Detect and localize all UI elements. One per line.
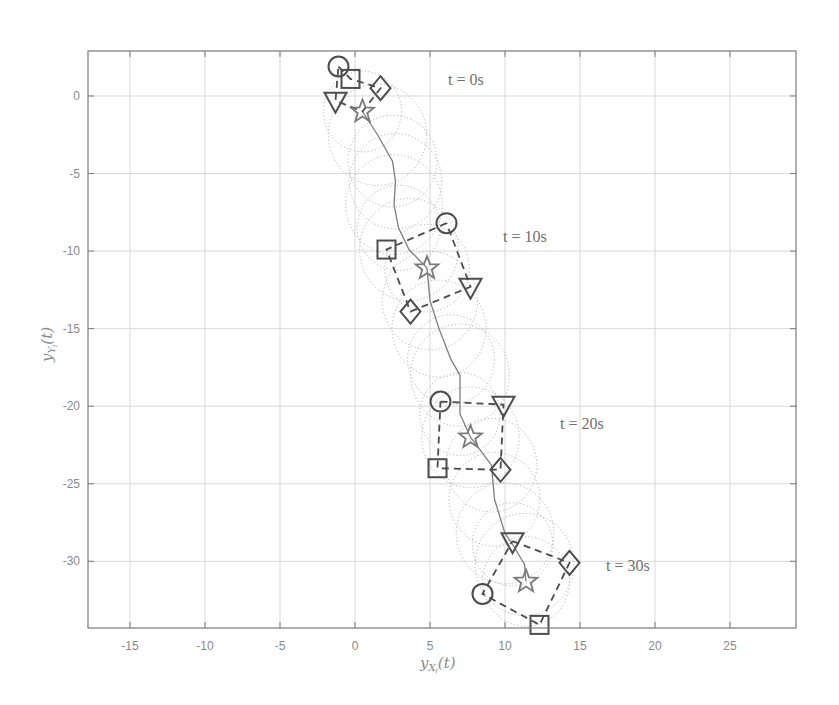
leader-path-line — [363, 111, 527, 581]
y-tick-label: 0 — [73, 89, 80, 103]
x-tick-label: 5 — [427, 639, 434, 653]
time-label-0s: t = 0s — [448, 71, 484, 88]
plot-frame — [88, 51, 796, 628]
x-tick-label: -15 — [121, 639, 139, 653]
time-label-20s: t = 20s — [560, 415, 604, 432]
leader-trajectory — [363, 111, 527, 581]
agent-markers — [325, 57, 580, 634]
grid-lines — [88, 51, 796, 628]
y-tick-label: -5 — [69, 167, 80, 181]
formation-link — [483, 541, 570, 625]
formation-link — [387, 223, 471, 311]
x-tick-label: -5 — [275, 639, 286, 653]
x-tick-label: 0 — [352, 639, 359, 653]
x-tick-label: 10 — [498, 639, 512, 653]
time-label-30s: t = 30s — [606, 557, 650, 574]
y-tick-label: -15 — [63, 322, 81, 336]
x-tick-label: -10 — [196, 639, 214, 653]
x-tick-label: 20 — [648, 639, 662, 653]
x-tick-label: 15 — [573, 639, 587, 653]
y-tick-label: -25 — [63, 477, 81, 491]
axis-ticks: -15-10-505101520250-5-10-15-20-25-30 — [63, 51, 796, 653]
y-axis-label: yYi(t) — [38, 327, 59, 363]
y-tick-label: -30 — [63, 554, 81, 568]
sensing-circles — [324, 71, 574, 626]
x-tick-label: 25 — [723, 639, 737, 653]
sensing-circle — [483, 537, 570, 627]
x-axis-label: yXi(t) — [419, 654, 456, 675]
trajectory-chart: -15-10-505101520250-5-10-15-20-25-30 t =… — [0, 0, 839, 705]
time-label-10s: t = 10s — [503, 228, 547, 245]
y-tick-label: -20 — [63, 399, 81, 413]
formation-links — [336, 67, 570, 625]
triangle-marker-icon — [460, 279, 482, 299]
y-tick-label: -10 — [63, 244, 81, 258]
square-marker-icon — [531, 616, 549, 634]
